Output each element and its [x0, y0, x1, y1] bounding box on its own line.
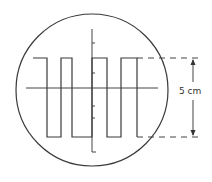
measurement-arrow — [191, 59, 196, 136]
oscilloscope-diagram: 5 cm — [0, 0, 212, 182]
arrow-down-head-icon — [191, 130, 196, 136]
measurement-label: 5 cm — [179, 86, 201, 96]
square-wave-trace — [33, 58, 137, 137]
arrow-up-head-icon — [191, 59, 196, 65]
